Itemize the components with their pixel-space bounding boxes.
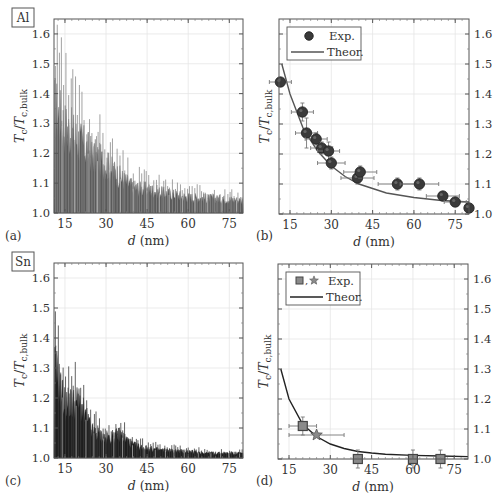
circle-marker-icon (450, 197, 460, 207)
legend-label-exp: Exp. (328, 274, 354, 288)
x-tick-label: 30 (323, 463, 338, 477)
legend: ,Exp.Theor. (286, 272, 363, 305)
circle-marker-icon (323, 146, 333, 156)
theory-curve (281, 369, 468, 457)
square-marker-icon (298, 422, 307, 431)
x-axis-label: d (nm) (128, 233, 170, 248)
figure: 15304560751.01.11.21.31.41.51.6d (nm)Tc/… (0, 0, 499, 497)
x-tick-label: 30 (324, 218, 339, 232)
oscillation-area (54, 346, 243, 458)
data-point (400, 178, 439, 190)
x-axis-label: d (nm) (128, 478, 170, 493)
x-tick-label: 30 (98, 462, 113, 476)
x-tick-label: 45 (365, 218, 380, 232)
x-tick-label: 30 (98, 217, 113, 231)
data-point (344, 166, 377, 178)
panel-label: (b) (256, 229, 273, 243)
panel-label: (a) (5, 229, 22, 243)
legend-square-icon (296, 277, 303, 284)
y-tick-label: 1.4 (32, 87, 50, 101)
x-tick-label: 75 (222, 462, 237, 476)
circle-marker-icon (414, 179, 424, 189)
x-tick-label: 60 (405, 463, 420, 477)
y-tick-label: 1.5 (473, 302, 491, 316)
y-axis-label: Tc/Tc,bulk (257, 89, 274, 143)
y-tick-label: 1.1 (32, 176, 50, 190)
y-tick-label: 1.2 (474, 147, 492, 161)
y-tick-label: 1.2 (473, 392, 491, 406)
data-point (318, 157, 346, 169)
x-tick-label: 60 (181, 217, 196, 231)
circle-marker-icon (301, 128, 311, 138)
y-tick-label: 1.4 (474, 87, 492, 101)
material-label: Al (16, 11, 30, 25)
circle-marker-icon (275, 77, 285, 87)
y-tick-label: 1.1 (474, 177, 492, 191)
y-tick-label: 1.2 (32, 391, 50, 405)
x-tick-label: 45 (364, 463, 379, 477)
x-tick-label: 60 (181, 462, 196, 476)
x-tick-label: 45 (139, 217, 154, 231)
y-tick-label: 1.1 (473, 422, 491, 436)
x-tick-label: 15 (57, 462, 72, 476)
x-axis-label: d (nm) (353, 234, 395, 249)
oscillation-spikes (55, 311, 242, 458)
panel-c: 15304560751.01.11.21.31.41.51.6d (nm)Tc/… (5, 252, 243, 493)
y-tick-label: 1.0 (32, 206, 50, 220)
material-label: Sn (15, 255, 31, 269)
y-axis-label: Tc/Tc,bulk (12, 333, 29, 387)
y-tick-label: 1.6 (473, 272, 491, 286)
y-tick-label: 1.0 (474, 207, 492, 221)
y-tick-label: 1.6 (474, 27, 492, 41)
y-tick-label: 1.0 (32, 451, 50, 465)
y-tick-label: 1.3 (474, 117, 492, 131)
y-tick-label: 1.6 (32, 271, 50, 285)
panel-d: 15304560751.01.11.21.31.41.51.6d (nm)Tc/… (256, 264, 491, 494)
svg-text:,: , (305, 275, 308, 286)
legend-label-theor: Theor. (326, 290, 363, 304)
legend-label-theor: Theor. (327, 45, 364, 59)
y-tick-label: 1.3 (473, 362, 491, 376)
x-tick-label: 45 (139, 462, 154, 476)
data-point (289, 429, 344, 440)
y-tick-label: 1.0 (473, 452, 491, 466)
x-tick-label: 15 (281, 463, 296, 477)
y-tick-label: 1.5 (32, 57, 50, 71)
y-tick-label: 1.1 (32, 421, 50, 435)
x-tick-label: 60 (406, 218, 421, 232)
y-tick-label: 1.4 (473, 332, 491, 346)
y-axis-label: Tc/Tc,bulk (12, 89, 29, 143)
legend: Exp.Theor. (287, 27, 364, 60)
panel-a: 15304560751.01.11.21.31.41.51.6d (nm)Tc/… (5, 8, 243, 248)
y-tick-label: 1.3 (32, 116, 50, 130)
y-tick-label: 1.4 (32, 331, 50, 345)
y-tick-label: 1.5 (474, 57, 492, 71)
y-tick-label: 1.3 (32, 361, 50, 375)
panel-label: (c) (5, 474, 21, 488)
x-axis-label: d (nm) (352, 479, 394, 494)
circle-marker-icon (297, 107, 307, 117)
x-tick-label: 15 (57, 217, 72, 231)
x-tick-label: 75 (448, 218, 463, 232)
y-tick-label: 1.5 (32, 301, 50, 315)
x-tick-label: 75 (447, 463, 462, 477)
y-tick-label: 1.6 (32, 27, 50, 41)
legend-label-exp: Exp. (329, 29, 355, 43)
circle-marker-icon (438, 191, 448, 201)
circle-marker-icon (326, 158, 336, 168)
x-tick-label: 75 (222, 217, 237, 231)
legend-circle-icon (305, 32, 313, 40)
panel-label: (d) (256, 474, 273, 488)
circle-marker-icon (355, 167, 365, 177)
panel-b: 15304560751.01.11.21.31.41.51.6d (nm)Tc/… (256, 19, 492, 249)
x-tick-label: 15 (282, 218, 297, 232)
y-axis-label: Tc/Tc,bulk (256, 334, 273, 388)
y-tick-label: 1.2 (32, 146, 50, 160)
circle-marker-icon (311, 134, 321, 144)
